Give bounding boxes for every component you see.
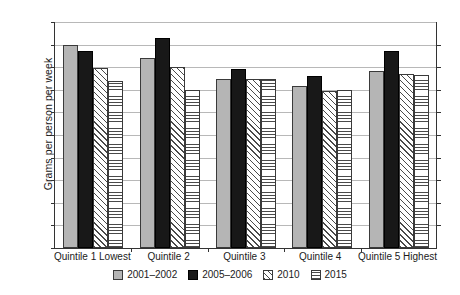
bar[interactable] (292, 86, 307, 248)
bar[interactable] (185, 90, 200, 248)
legend-label: 2015 (325, 269, 347, 280)
x-axis-labels: Quintile 1 LowestQuintile 2Quintile 3Qui… (54, 251, 437, 262)
x-axis-label: Quintile 3 (207, 251, 283, 262)
right-tick-mark (437, 45, 441, 46)
legend-label: 2010 (277, 269, 299, 280)
legend-item[interactable]: 2010 (263, 269, 299, 280)
bar-group-bars (208, 22, 284, 248)
plot-inner: 020406080100120140160180200 (55, 22, 437, 248)
x-axis-label: Quintile 4 (282, 251, 358, 262)
bar[interactable] (399, 74, 414, 248)
right-tick-mark (437, 67, 441, 68)
right-tick-mark (437, 90, 441, 91)
bar[interactable] (307, 76, 322, 248)
y-axis-title: Grams per person per week (42, 14, 54, 234)
bar[interactable] (414, 75, 429, 248)
plot-area: 020406080100120140160180200 (54, 22, 437, 248)
bar[interactable] (369, 71, 384, 248)
x-axis-label: Quintile 5 Highest (358, 251, 437, 262)
bar[interactable] (170, 67, 185, 248)
bar[interactable] (63, 45, 78, 248)
bar[interactable] (231, 69, 246, 248)
right-tick-mark (437, 225, 441, 226)
bar[interactable] (246, 79, 261, 249)
bar-group (361, 22, 437, 248)
bar[interactable] (78, 51, 93, 248)
bar[interactable] (261, 79, 276, 249)
bar-group (131, 22, 207, 248)
legend-swatch-icon (311, 270, 321, 280)
bar-group (284, 22, 360, 248)
bar-group (208, 22, 284, 248)
bar[interactable] (155, 38, 170, 248)
legend-swatch-icon (113, 270, 123, 280)
right-tick-mark (437, 135, 441, 136)
x-axis-label: Quintile 2 (131, 251, 207, 262)
right-tick-mark (437, 180, 441, 181)
x-axis-label: Quintile 1 Lowest (54, 251, 131, 262)
bar[interactable] (384, 51, 399, 248)
legend-item[interactable]: 2001–2002 (113, 269, 177, 280)
bar-chart: Grams per person per week 02040608010012… (0, 0, 460, 295)
bar-group-bars (55, 22, 131, 248)
bar[interactable] (140, 58, 155, 248)
legend-swatch-icon (188, 270, 198, 280)
bar[interactable] (322, 91, 337, 248)
bar[interactable] (216, 79, 231, 249)
legend-swatch-icon (263, 270, 273, 280)
legend-item[interactable]: 2005–2006 (188, 269, 252, 280)
right-tick-mark (437, 112, 441, 113)
bar-groups (55, 22, 437, 248)
legend-label: 2001–2002 (127, 269, 177, 280)
chart-legend: 2001–20022005–200620102015 (0, 269, 460, 280)
legend-item[interactable]: 2015 (311, 269, 347, 280)
right-tick-mark (437, 158, 441, 159)
legend-label: 2005–2006 (202, 269, 252, 280)
y-tick-mark (51, 248, 55, 249)
gridline (55, 248, 437, 249)
right-tick-mark (437, 203, 441, 204)
bar-group-bars (131, 22, 207, 248)
bar-group-bars (361, 22, 437, 248)
bar[interactable] (108, 81, 123, 248)
bar-group (55, 22, 131, 248)
bar-group-bars (284, 22, 360, 248)
bar[interactable] (93, 68, 108, 248)
bar[interactable] (337, 90, 352, 248)
